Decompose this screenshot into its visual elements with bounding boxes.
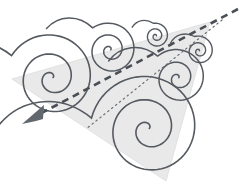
vorticity-diagram-svg: Vorticity vectors on an inclined plane A… xyxy=(0,0,244,190)
figure-root: Vorticity vectors on an inclined plane A… xyxy=(0,0,244,190)
